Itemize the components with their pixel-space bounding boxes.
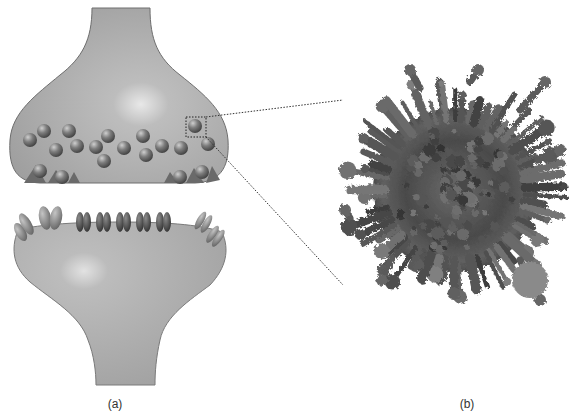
surface-texture (410, 210, 417, 217)
vesicle (136, 129, 150, 143)
panel-b-vesicle-model (339, 64, 567, 306)
protein-domain (376, 274, 388, 286)
surface-texture (472, 210, 479, 217)
receptor-subunit (83, 212, 91, 232)
surface-texture (437, 145, 445, 153)
surface-texture (465, 245, 470, 250)
docked-vesicle (173, 170, 187, 184)
surface-texture (486, 192, 491, 197)
surface-texture (483, 161, 490, 168)
protein-domain (560, 183, 567, 190)
surface-texture (458, 195, 468, 205)
protein-domain (458, 91, 466, 99)
surface-texture (414, 169, 422, 177)
protein-domain (472, 64, 484, 76)
surface-texture (431, 227, 444, 240)
protein-domain (544, 216, 551, 223)
zoom-connector-lines (206, 100, 343, 285)
membrane-protein (525, 187, 563, 188)
protein-domain (404, 64, 416, 76)
surface-texture (454, 156, 465, 167)
membrane-protein (525, 195, 566, 198)
surface-texture (434, 215, 439, 220)
surface-texture (445, 189, 457, 201)
surface-texture (420, 222, 427, 229)
surface-texture (412, 226, 417, 231)
surface-texture (436, 221, 441, 226)
vesicle (188, 119, 202, 133)
docked-vesicle (55, 170, 69, 184)
vesicle (89, 140, 103, 154)
membrane-protein (470, 258, 477, 289)
surface-texture (452, 206, 461, 215)
protein-domain (358, 133, 369, 144)
vesicle (174, 141, 188, 155)
receptor-subunit (136, 212, 144, 232)
protein-domain (439, 80, 445, 86)
surface-texture (403, 183, 409, 189)
vesicle (117, 141, 131, 155)
surface-texture (452, 182, 456, 186)
surface-texture (468, 154, 477, 163)
surface-texture (447, 168, 452, 173)
membrane-protein (524, 174, 561, 180)
vesicle (62, 124, 76, 138)
surface-texture (490, 222, 500, 232)
large-complex (512, 262, 548, 298)
panel-b-label: (b) (460, 397, 475, 411)
receptor-subunit (156, 212, 164, 232)
vesicle (49, 143, 63, 157)
protein-domain (339, 162, 357, 180)
surface-texture (482, 210, 487, 215)
vesicle (97, 154, 111, 168)
surface-texture (497, 151, 504, 158)
surface-texture (424, 204, 428, 208)
protein-domain (538, 119, 555, 136)
surface-texture (471, 162, 478, 169)
protein-domain (539, 76, 551, 88)
surface-texture (475, 146, 483, 154)
surface-texture (485, 235, 491, 241)
receptor-subunit (143, 212, 151, 232)
surface-texture (499, 167, 508, 176)
surface-texture (467, 181, 474, 188)
membrane-protein (474, 101, 480, 123)
surface-texture (423, 144, 436, 157)
vesicle (101, 129, 115, 143)
surface-texture (401, 171, 407, 177)
receptor-subunit (103, 212, 111, 232)
zoom-line (206, 137, 343, 285)
surface-texture (479, 192, 483, 196)
protein-domain (339, 204, 351, 216)
surface-texture (482, 133, 494, 145)
surface-texture (457, 132, 461, 136)
vesicle (139, 148, 153, 162)
docked-vesicle (195, 165, 209, 179)
vesicle (37, 124, 51, 138)
protein-domain (360, 164, 369, 173)
surface-texture (475, 137, 484, 146)
surface-texture (441, 167, 447, 173)
surface-texture (456, 170, 467, 181)
protein-domain (447, 287, 460, 300)
surface-texture (488, 180, 493, 185)
vesicle (70, 139, 84, 153)
surface-texture (449, 224, 457, 232)
receptor-subunit (116, 212, 124, 232)
surface-texture (478, 235, 485, 242)
docked-vesicle (33, 164, 47, 178)
protein-domain (503, 278, 511, 286)
panel-a-synapse (8, 8, 228, 385)
figure-canvas (0, 0, 569, 418)
protein-domain (530, 233, 544, 247)
surface-texture (414, 161, 422, 169)
surface-texture (509, 197, 515, 203)
receptor-subunit (76, 212, 84, 232)
vesicle (23, 133, 37, 147)
surface-texture (499, 182, 511, 194)
zoom-line (206, 100, 343, 117)
surface-texture (452, 129, 457, 134)
synapse-figure: (a) (b) (0, 0, 569, 418)
postsynaptic-cell (14, 222, 226, 385)
surface-texture (442, 246, 446, 250)
